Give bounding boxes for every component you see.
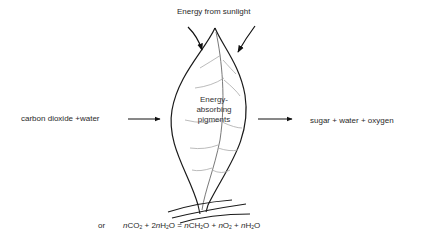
leaf-label-line-1: Energy- bbox=[184, 95, 244, 105]
photosynthesis-equation: nCO2 + 2nH2O = nCH2O + nO2 + nH2O bbox=[123, 221, 260, 232]
leaf-label: Energy- absorbing pigments bbox=[184, 95, 244, 125]
output-label: sugar + water + oxygen bbox=[310, 116, 394, 126]
leaf-label-line-3: pigments bbox=[184, 115, 244, 125]
energy-from-sunlight-label: Energy from sunlight bbox=[177, 7, 250, 17]
leaf-label-line-2: absorbing bbox=[184, 105, 244, 115]
sunlight-arrow-right bbox=[238, 26, 255, 52]
input-label: carbon dioxide +water bbox=[21, 114, 100, 124]
equation-prefix: or bbox=[98, 221, 105, 231]
sunlight-arrow-left bbox=[188, 27, 202, 50]
